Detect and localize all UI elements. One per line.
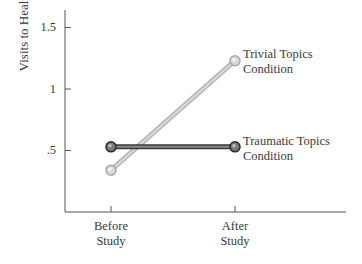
y-ticks bbox=[65, 28, 71, 151]
y-tick-label-1: 1 bbox=[26, 82, 56, 97]
y-tick-label-0-5: .5 bbox=[26, 143, 56, 158]
x-tick-label-before: Before Study bbox=[81, 219, 141, 249]
series-traumatic bbox=[106, 142, 240, 152]
series-trivial bbox=[106, 56, 240, 175]
x-ticks bbox=[111, 206, 235, 212]
series-label-trivial: Trivial Topics Condition bbox=[243, 47, 313, 77]
x-tick-label-after: After Study bbox=[205, 219, 265, 249]
series-lines bbox=[106, 56, 240, 175]
line-chart bbox=[0, 0, 362, 264]
y-tick-label-1-5: 1.5 bbox=[26, 20, 56, 35]
series-label-traumatic: Traumatic Topics Condition bbox=[243, 134, 330, 164]
